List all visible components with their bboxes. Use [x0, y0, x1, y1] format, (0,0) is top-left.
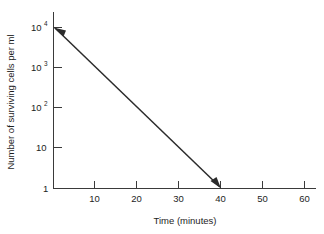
y-tick-label-1000-mantissa: 10 — [31, 62, 42, 73]
x-tick-label-50: 50 — [257, 193, 268, 204]
y-tick-label-10000-mantissa: 10 — [31, 22, 42, 33]
y-tick-label-1000-exponent: 3 — [44, 60, 48, 67]
y-tick-label-10000-exponent: 4 — [44, 20, 48, 27]
x-tick-label-10: 10 — [89, 193, 100, 204]
x-tick-label-20: 20 — [131, 193, 142, 204]
y-tick-label-100-exponent: 2 — [44, 100, 48, 107]
y-tick-label-1-mantissa: 1 — [43, 183, 48, 194]
x-axis-title: Time (minutes) — [154, 215, 217, 226]
y-tick-label-100-mantissa: 10 — [31, 102, 42, 113]
x-tick-label-30: 30 — [173, 193, 184, 204]
data-series-surviving-cells — [55, 28, 219, 186]
x-tick-label-40: 40 — [215, 193, 226, 204]
y-axis-title: Number of surviving cells per ml — [5, 34, 16, 169]
y-axis-ticks — [54, 28, 63, 148]
x-tick-label-60: 60 — [299, 193, 310, 204]
y-tick-labels: 10 4 10 3 10 2 10 1 — [31, 20, 48, 194]
y-tick-label-10-mantissa: 10 — [36, 142, 47, 153]
x-tick-labels: 10 20 30 40 50 60 — [89, 193, 310, 204]
chart-figure: 10 4 10 3 10 2 10 1 10 20 30 40 50 60 Ti… — [0, 0, 324, 234]
survival-curve-chart: 10 4 10 3 10 2 10 1 10 20 30 40 50 60 Ti… — [0, 0, 324, 234]
line-start-arrow-icon — [54, 28, 67, 37]
x-axis-ticks — [95, 181, 305, 189]
